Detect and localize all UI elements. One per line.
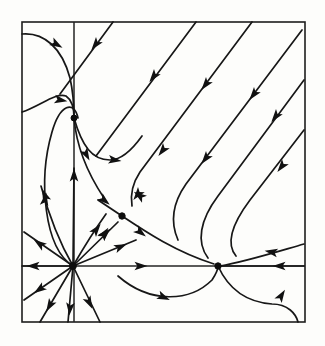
fixed-point-saddle-center: [119, 213, 125, 219]
phase-portrait-canvas: [0, 0, 325, 346]
fixed-point-star-node-source: [70, 263, 77, 270]
phase-portrait-figure: [0, 0, 325, 346]
fixed-point-saddle-upper: [71, 115, 77, 121]
trajectory-star-ray-up: [73, 168, 74, 266]
fixed-point-node-right: [215, 263, 221, 269]
